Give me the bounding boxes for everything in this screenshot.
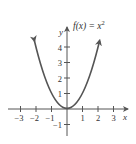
x-tick-label: −3: [14, 113, 23, 123]
function-exponent: 2: [102, 19, 105, 26]
function-title: f(x) = x2: [73, 19, 105, 32]
function-graph: −3 −2 −1 1 2 3 x −1 1 2 3 4 y f(x) = x2: [0, 0, 136, 144]
y-axis-label: y: [58, 27, 63, 37]
x-tick-label: −2: [30, 113, 39, 123]
y-tick-label: 2: [58, 74, 62, 84]
x-tick-label: 1: [80, 113, 84, 123]
x-axis-label: x: [122, 112, 127, 122]
y-tick-label: 4: [58, 43, 63, 53]
y-tick-label: −1: [53, 120, 62, 130]
x-tick-label: 2: [96, 113, 100, 123]
x-tick-label: 3: [111, 113, 115, 123]
function-title-text: f(x) = x: [73, 21, 102, 32]
y-tick-label: 1: [58, 89, 62, 99]
y-tick-label: 3: [58, 58, 62, 68]
